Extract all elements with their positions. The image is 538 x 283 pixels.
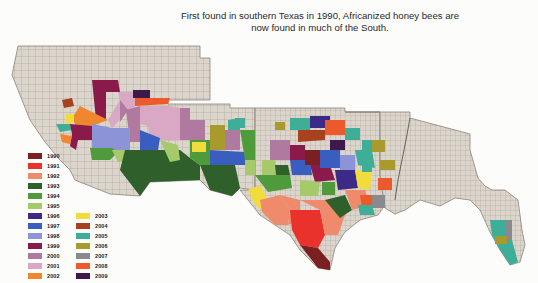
- legend-swatch: [28, 273, 42, 279]
- legend-label: 1990: [47, 153, 60, 159]
- africanized-bee-spread-map: [0, 0, 538, 283]
- legend-item: 2007: [76, 252, 108, 260]
- legend-item: 2009: [76, 272, 108, 280]
- legend-item: 2000: [28, 252, 60, 260]
- legend-item: 2004: [76, 222, 108, 230]
- legend-item: 1992: [28, 172, 60, 180]
- legend-item: 1996: [28, 212, 60, 220]
- legend-item: 2002: [28, 272, 60, 280]
- legend-swatch: [76, 243, 90, 249]
- legend-item: 1997: [28, 222, 60, 230]
- legend-swatch: [28, 163, 42, 169]
- legend-item: 1999: [28, 242, 60, 250]
- legend-label: 2002: [47, 273, 60, 279]
- legend-label: 1999: [47, 243, 60, 249]
- legend-swatch: [28, 193, 42, 199]
- legend-item: 2006: [76, 242, 108, 250]
- legend-swatch: [28, 183, 42, 189]
- legend-swatch: [28, 253, 42, 259]
- legend-item: 2005: [76, 232, 108, 240]
- legend-item: 1994: [28, 192, 60, 200]
- legend-label: 2007: [95, 253, 108, 259]
- legend-item: 2008: [76, 262, 108, 270]
- legend-label: 2006: [95, 243, 108, 249]
- legend-item: 1995: [28, 202, 60, 210]
- legend-swatch: [28, 223, 42, 229]
- legend-label: 1996: [47, 213, 60, 219]
- legend-item: 2003: [76, 212, 108, 220]
- legend-swatch: [28, 153, 42, 159]
- legend-swatch: [76, 233, 90, 239]
- legend-swatch: [28, 213, 42, 219]
- legend-swatch: [76, 223, 90, 229]
- legend-label: 1994: [47, 193, 60, 199]
- legend-swatch: [28, 173, 42, 179]
- legend-label: 2004: [95, 223, 108, 229]
- legend-swatch: [28, 233, 42, 239]
- legend-label: 1991: [47, 163, 60, 169]
- legend-label: 1995: [47, 203, 60, 209]
- legend-swatch: [28, 263, 42, 269]
- legend-swatch: [76, 263, 90, 269]
- legend-label: 1992: [47, 173, 60, 179]
- legend-label: 2008: [95, 263, 108, 269]
- legend-swatch: [28, 203, 42, 209]
- legend-label: 1993: [47, 183, 60, 189]
- legend-item: 1991: [28, 162, 60, 170]
- legend-label: 2000: [47, 253, 60, 259]
- legend-label: 1997: [47, 223, 60, 229]
- legend-item: 1998: [28, 232, 60, 240]
- legend-swatch: [76, 253, 90, 259]
- legend-label: 1998: [47, 233, 60, 239]
- legend-label: 2005: [95, 233, 108, 239]
- legend-swatch: [28, 243, 42, 249]
- legend-item: 1990: [28, 152, 60, 160]
- legend-item: 2001: [28, 262, 60, 270]
- legend-label: 2009: [95, 273, 108, 279]
- legend-swatch: [76, 273, 90, 279]
- legend-swatch: [76, 213, 90, 219]
- legend-label: 2001: [47, 263, 60, 269]
- legend-item: 1993: [28, 182, 60, 190]
- legend-label: 2003: [95, 213, 108, 219]
